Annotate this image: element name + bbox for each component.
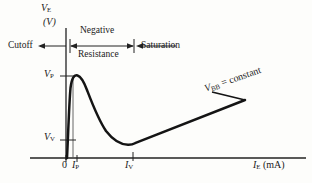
peak-voltage-subscript: P <box>50 72 54 79</box>
negative-resistance-arrow-head-right <box>127 43 134 49</box>
peak-current-label: IP <box>72 160 79 171</box>
region-label-saturation: Saturation <box>141 41 180 51</box>
valley-current-subscript: V <box>128 163 133 170</box>
region-label-cutoff: Cutoff <box>8 41 33 51</box>
origin-label: 0 <box>62 160 67 170</box>
peak-current-subscript: P <box>75 163 79 170</box>
y-axis-unit: (V) <box>43 17 56 27</box>
vbb-leader-line <box>212 92 245 100</box>
x-axis-label: IE (mA) <box>253 160 285 171</box>
ujt-characteristic-figure: VE (V) IE (mA) Cutoff Negative Resistanc… <box>0 0 312 183</box>
peak-voltage-label: VP <box>44 69 54 80</box>
chart-canvas <box>0 0 312 183</box>
valley-voltage-subscript: V <box>50 135 55 142</box>
y-axis-label: VE <box>41 3 51 14</box>
region-label-negative-resistance-line1: Negative <box>80 26 114 36</box>
x-axis-label-subscript: E <box>256 163 260 170</box>
valley-current-label: IV <box>125 160 133 171</box>
valley-voltage-label: VV <box>44 132 55 143</box>
y-axis-label-subscript: E <box>47 6 51 13</box>
negative-resistance-arrow-head-left <box>70 43 77 49</box>
x-axis-label-unit: (mA) <box>263 159 285 170</box>
cutoff-arrow-head <box>38 43 45 49</box>
region-label-negative-resistance-line2: Resistance <box>78 50 119 60</box>
